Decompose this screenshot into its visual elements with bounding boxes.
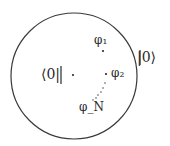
phi-1-point [102,50,104,52]
phi-2-point [105,73,107,75]
ket-zero-label: |0⟩ [137,50,156,64]
phi-2-label: φ₂ [111,67,124,79]
dotted-trail [92,82,105,100]
bra-zero-label: ⟨0| [41,67,60,81]
center-point [72,74,74,76]
diagram-canvas [0,0,170,146]
phi-1-label: φ₁ [94,34,107,46]
phi-n-label: φ_N [79,101,104,113]
